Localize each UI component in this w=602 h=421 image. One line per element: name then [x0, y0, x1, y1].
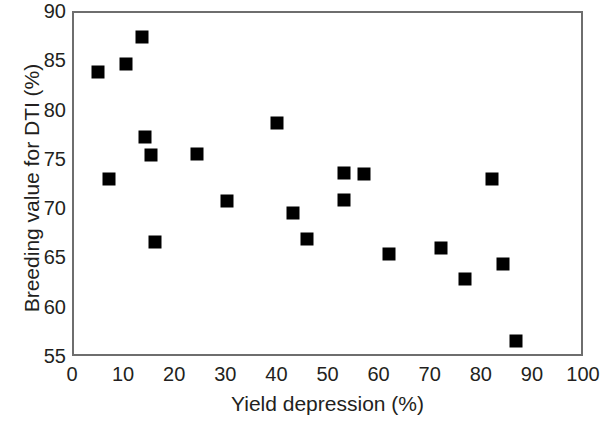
x-tick-label: 40: [265, 364, 287, 384]
x-axis-title: Yield depression (%): [72, 392, 583, 416]
x-tick-label: 70: [419, 364, 441, 384]
x-axis-tick-labels: 0102030405060708090100: [0, 0, 602, 421]
x-tick-label: 10: [112, 364, 134, 384]
scatter-plot-figure: 5560657075808590 0102030405060708090100 …: [0, 0, 602, 421]
x-tick-label: 50: [316, 364, 338, 384]
y-axis-title: Breeding value for DTI (%): [20, 8, 44, 368]
x-tick-label: 20: [163, 364, 185, 384]
x-tick-label: 30: [214, 364, 236, 384]
x-tick-label: 0: [66, 364, 77, 384]
x-tick-label: 80: [470, 364, 492, 384]
x-tick-label: 90: [521, 364, 543, 384]
x-tick-label: 60: [367, 364, 389, 384]
x-tick-label: 100: [566, 364, 599, 384]
